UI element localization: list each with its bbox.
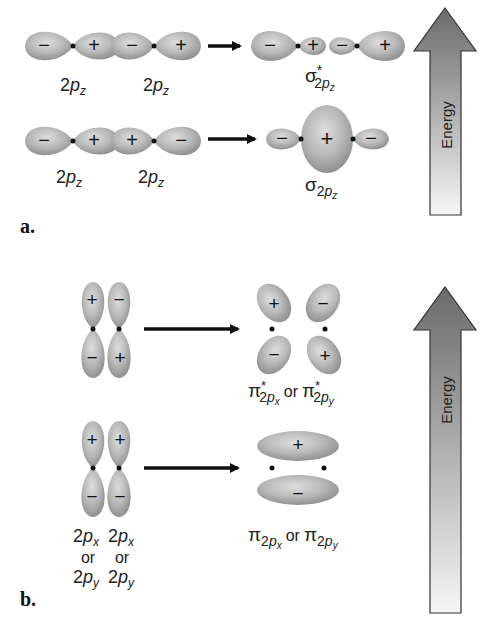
nucleus-dot bbox=[117, 327, 122, 332]
phase-sign: + bbox=[114, 347, 125, 368]
sigma-bonding-row: − + + − 2pz 2pz − bbox=[25, 105, 389, 201]
phase-sign: + bbox=[319, 345, 330, 366]
molecular-orbital-pi-star: + − − + bbox=[250, 277, 349, 381]
orbital-label-2pz: 2pz bbox=[138, 167, 164, 190]
panel-a: − + − + 2pz 2pz bbox=[20, 8, 476, 237]
atomic-orbital-2pz-1: − + bbox=[25, 32, 119, 61]
energy-arrow-shape bbox=[414, 287, 476, 613]
orbital-label-2pz: 2pz bbox=[143, 75, 169, 98]
phase-sign: − bbox=[113, 289, 124, 310]
nucleus-dot bbox=[91, 466, 96, 471]
atomic-orbital-2pz-1: − + bbox=[25, 127, 119, 156]
atomic-orbital-pair: + + − − bbox=[81, 421, 130, 517]
molecular-orbital-sigma: − + − bbox=[266, 105, 389, 173]
phase-sign: + bbox=[88, 34, 100, 56]
phase-sign: − bbox=[38, 34, 50, 56]
mo-label-sigma-star-2pz: σ*2pz bbox=[305, 62, 335, 93]
energy-label: Energy bbox=[438, 376, 455, 424]
atomic-orbital-labels: 2px 2px or or 2py 2py bbox=[73, 526, 135, 590]
energy-label: Energy bbox=[438, 101, 455, 149]
orbital-label-2pz: 2pz bbox=[56, 167, 82, 190]
phase-sign: + bbox=[321, 126, 334, 151]
phase-sign: + bbox=[268, 293, 279, 314]
panel-b: + − − + + − − + π*2pxorπ*2py bbox=[20, 277, 476, 613]
nucleus-dot bbox=[322, 466, 327, 471]
orbital-label-or: or bbox=[115, 549, 130, 566]
nucleus-dot bbox=[299, 137, 304, 142]
phase-sign: + bbox=[126, 129, 138, 151]
phase-sign: + bbox=[175, 34, 187, 56]
pi-bonding-row: + + − − 2px 2px or or 2py 2py bbox=[73, 421, 339, 590]
phase-sign: + bbox=[379, 34, 391, 56]
molecular-orbital-pi: + − bbox=[257, 431, 339, 505]
sigma-antibonding-row: − + − + 2pz 2pz bbox=[25, 31, 405, 98]
nucleus-dot bbox=[152, 139, 157, 144]
orbital-label-2pz: 2pz bbox=[60, 75, 86, 98]
pi-antibonding-row: + − − + + − − + π*2pxorπ*2py bbox=[81, 277, 348, 407]
phase-sign: − bbox=[264, 34, 276, 56]
phase-sign: − bbox=[86, 347, 97, 368]
phase-sign: − bbox=[114, 486, 125, 507]
phase-sign: − bbox=[276, 127, 288, 149]
orbital-label-2py: 2py bbox=[73, 567, 100, 590]
nucleus-dot bbox=[91, 327, 96, 332]
phase-sign: − bbox=[365, 127, 377, 149]
phase-sign: − bbox=[126, 34, 138, 56]
nucleus-dot bbox=[270, 466, 275, 471]
nucleus-dot bbox=[117, 466, 122, 471]
energy-arrow-a: Energy bbox=[414, 8, 476, 215]
phase-sign: + bbox=[86, 429, 97, 450]
mo-label-pi: π2pxorπ2py bbox=[248, 524, 339, 551]
mo-label-sigma-2pz: σ2pz bbox=[305, 174, 337, 201]
panel-label-a: a. bbox=[20, 215, 35, 237]
phase-sign: − bbox=[336, 34, 348, 56]
nucleus-dot bbox=[152, 44, 157, 49]
nucleus-dot bbox=[355, 44, 360, 49]
molecular-orbital-diagram: − + − + 2pz 2pz bbox=[0, 0, 483, 632]
phase-sign: − bbox=[292, 483, 303, 504]
orbital-label-or: or bbox=[81, 549, 96, 566]
phase-sign: + bbox=[86, 289, 97, 310]
atomic-orbital-pair: + − − + bbox=[81, 282, 130, 378]
orbital-label-2px: 2px bbox=[73, 526, 100, 549]
phase-sign: + bbox=[292, 434, 303, 455]
atomic-orbital-2pz-2: + − bbox=[111, 127, 201, 156]
phase-sign: + bbox=[88, 129, 100, 151]
phase-sign: − bbox=[38, 129, 50, 151]
atomic-orbital-2pz-2: − + bbox=[111, 32, 201, 61]
phase-sign: + bbox=[114, 429, 125, 450]
phase-sign: − bbox=[268, 344, 279, 365]
nucleus-dot bbox=[71, 139, 76, 144]
mo-label-pi-star: π*2pxorπ*2py bbox=[248, 378, 335, 407]
nucleus-dot bbox=[71, 44, 76, 49]
molecular-orbital-sigma-star: − + − + bbox=[251, 31, 405, 61]
phase-sign: − bbox=[317, 293, 328, 314]
nucleus-dot bbox=[270, 327, 275, 332]
nucleus-dot bbox=[351, 137, 356, 142]
phase-sign: − bbox=[175, 129, 187, 151]
energy-arrow-b: Energy bbox=[414, 287, 476, 613]
orbital-label-2py: 2py bbox=[108, 567, 135, 590]
panel-label-b: b. bbox=[20, 588, 36, 610]
phase-sign: − bbox=[86, 486, 97, 507]
phase-sign: + bbox=[307, 34, 319, 56]
nucleus-dot bbox=[296, 44, 301, 49]
nucleus-dot bbox=[323, 327, 328, 332]
orbital-label-2px: 2px bbox=[108, 526, 135, 549]
